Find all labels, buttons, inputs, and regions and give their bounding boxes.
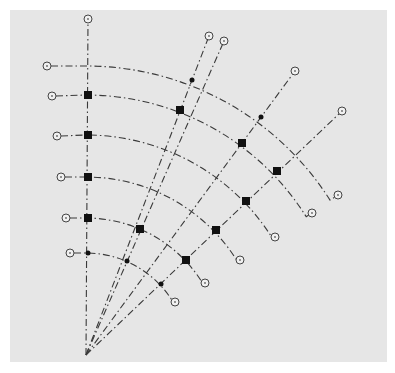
intersection-square-marker [212, 226, 220, 234]
intersection-square-marker [273, 167, 281, 175]
ray-3-end-dot [223, 40, 225, 42]
ray-group [86, 23, 339, 355]
arc-group [51, 66, 338, 303]
marker-group [84, 78, 281, 287]
arc-6 [74, 253, 175, 303]
arc-1-end-end-dot [337, 194, 339, 196]
ray-4-end-dot [294, 70, 296, 72]
arc-2-end-end-dot [311, 212, 313, 214]
intersection-square-marker [242, 197, 250, 205]
intersection-dot-marker [259, 115, 264, 120]
arc-6-end-end-dot [174, 301, 176, 303]
ray-3 [86, 45, 222, 355]
endpoint-group [43, 15, 346, 306]
ray-5 [86, 114, 339, 355]
arc-3-end-end-dot [274, 236, 276, 238]
intersection-square-marker [182, 256, 190, 264]
intersection-square-marker [238, 139, 246, 147]
arc-3-start-end-dot [56, 135, 58, 137]
ray-2-end-dot [208, 35, 210, 37]
intersection-dot-marker [190, 78, 195, 83]
intersection-square-marker [176, 106, 184, 114]
intersection-square-marker [84, 214, 92, 222]
arc-3 [61, 135, 275, 239]
polar-fan-diagram [0, 0, 395, 373]
intersection-dot-marker [159, 282, 164, 287]
arc-5-start-end-dot [65, 217, 67, 219]
intersection-dot-marker [86, 251, 91, 256]
intersection-square-marker [84, 131, 92, 139]
arc-4-start-end-dot [60, 176, 62, 178]
intersection-square-marker [84, 173, 92, 181]
arc-4-end-end-dot [239, 259, 241, 261]
arc-2-start-end-dot [51, 95, 53, 97]
arc-1 [51, 66, 338, 200]
intersection-square-marker [84, 91, 92, 99]
ray-2 [86, 40, 208, 355]
arc-5-end-end-dot [204, 282, 206, 284]
ray-1 [86, 23, 88, 355]
arc-6-start-end-dot [69, 252, 71, 254]
intersection-dot-marker [125, 259, 130, 264]
intersection-square-marker [136, 225, 144, 233]
ray-1-end-dot [87, 18, 89, 20]
arc-1-start-end-dot [46, 65, 48, 67]
ray-5-end-dot [341, 110, 343, 112]
